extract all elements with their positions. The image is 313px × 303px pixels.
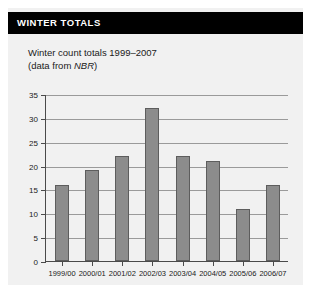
- x-tick-label: 2006/07: [259, 269, 286, 278]
- x-tick-label: 1999/00: [49, 269, 76, 278]
- y-tick-label: 15: [29, 186, 38, 195]
- x-tick-mark: [92, 262, 93, 266]
- x-tick-mark: [122, 262, 123, 266]
- x-axis-line: [45, 261, 288, 262]
- y-tick-label: 20: [29, 162, 38, 171]
- y-tick-mark: [41, 167, 46, 168]
- y-tick-label: 25: [29, 138, 38, 147]
- x-tick-label: 2005/06: [229, 269, 256, 278]
- bar: [176, 156, 190, 261]
- y-tick-mark: [41, 143, 46, 144]
- x-tick-mark: [243, 262, 244, 266]
- y-tick-label: 10: [29, 210, 38, 219]
- x-tick-label: 2004/05: [199, 269, 226, 278]
- y-tick-mark: [41, 119, 46, 120]
- x-tick-mark: [213, 262, 214, 266]
- y-tick-label: 0: [34, 258, 38, 267]
- gridline: [45, 143, 288, 144]
- x-tick-mark: [62, 262, 63, 266]
- bar: [206, 161, 220, 261]
- bar: [55, 185, 69, 261]
- y-tick-label: 5: [34, 234, 38, 243]
- gridline: [45, 238, 288, 239]
- bar-chart: 05101520253035 1999/002000/012001/022002…: [8, 8, 303, 285]
- y-tick-mark: [41, 95, 46, 96]
- screenshot-root: WINTER TOTALS Winter count totals 1999–2…: [0, 0, 313, 303]
- bar: [85, 170, 99, 261]
- x-tick-label: 2000/01: [79, 269, 106, 278]
- bar: [115, 156, 129, 261]
- bar: [236, 209, 250, 261]
- y-tick-mark: [41, 214, 46, 215]
- winter-totals-panel: WINTER TOTALS Winter count totals 1999–2…: [8, 8, 303, 285]
- gridline: [45, 119, 288, 120]
- y-tick-label: 35: [29, 91, 38, 100]
- y-axis-line: [45, 95, 46, 262]
- x-tick-label: 2003/04: [169, 269, 196, 278]
- x-tick-mark: [273, 262, 274, 266]
- x-tick-mark: [152, 262, 153, 266]
- gridline: [45, 214, 288, 215]
- x-tick-label: 2001/02: [109, 269, 136, 278]
- y-tick-label: 30: [29, 114, 38, 123]
- gridline: [45, 95, 288, 96]
- gridline: [45, 190, 288, 191]
- gridline: [45, 167, 288, 168]
- plot-area: 05101520253035 1999/002000/012001/022002…: [45, 95, 288, 262]
- bar: [266, 185, 280, 261]
- y-tick-mark: [41, 238, 46, 239]
- x-tick-label: 2002/03: [139, 269, 166, 278]
- bar: [145, 108, 159, 261]
- x-tick-mark: [183, 262, 184, 266]
- y-tick-mark: [41, 190, 46, 191]
- y-tick-mark: [41, 262, 46, 263]
